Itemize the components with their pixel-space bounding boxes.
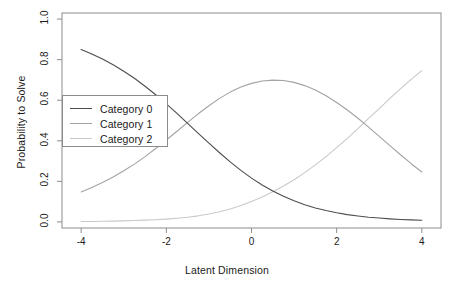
legend-line-icon	[70, 138, 92, 139]
legend-item-label: Category 1	[100, 118, 152, 130]
legend-item-2: Category 2	[63, 131, 169, 146]
legend-line-icon	[70, 108, 92, 109]
y-tick-label: 1.0	[39, 0, 50, 38]
y-tick-label: 0.2	[39, 160, 50, 200]
x-tick-label: 2	[317, 236, 357, 247]
legend-item-label: Category 0	[100, 103, 152, 115]
legend-item-1: Category 1	[63, 116, 169, 131]
y-tick-label: 0.6	[39, 79, 50, 119]
legend-item-0: Category 0	[63, 101, 169, 116]
x-tick-label: -4	[61, 236, 101, 247]
x-tick-label: 0	[232, 236, 272, 247]
x-tick-label: 4	[402, 236, 442, 247]
chart-legend: Category 0Category 1Category 2	[62, 95, 168, 147]
y-axis-title: Probability to Solve	[15, 47, 27, 197]
x-tick-label: -2	[146, 236, 186, 247]
legend-item-label: Category 2	[100, 133, 152, 145]
y-tick-label: 0.0	[39, 200, 50, 240]
chart-figure: Latent Dimension Probability to Solve -4…	[0, 0, 454, 289]
x-axis-title: Latent Dimension	[0, 264, 454, 276]
y-tick-label: 0.8	[39, 38, 50, 78]
legend-line-icon	[70, 123, 92, 124]
y-tick-label: 0.4	[39, 119, 50, 159]
